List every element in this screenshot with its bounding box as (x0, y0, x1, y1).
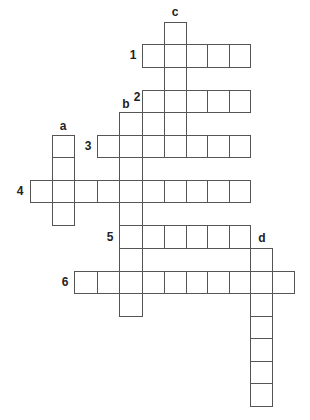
crossword-cell[interactable] (164, 22, 187, 45)
crossword-cell[interactable] (207, 135, 230, 158)
crossword-cell[interactable] (119, 271, 143, 294)
clue-label-d: d (258, 232, 265, 244)
crossword-cell[interactable] (52, 202, 75, 226)
crossword-cell[interactable] (186, 225, 208, 249)
crossword-cell[interactable] (229, 44, 251, 68)
crossword-cell[interactable] (119, 135, 143, 158)
crossword-cell[interactable] (119, 202, 143, 226)
crossword-cell[interactable] (119, 157, 143, 181)
clue-label-6: 6 (62, 276, 69, 288)
crossword-cell[interactable] (229, 90, 251, 113)
crossword-cell[interactable] (207, 225, 230, 249)
clue-label-5: 5 (107, 231, 114, 243)
crossword-cell[interactable] (250, 361, 273, 384)
crossword-cell[interactable] (250, 383, 273, 407)
clue-label-1: 1 (130, 49, 137, 61)
crossword-cell[interactable] (119, 225, 143, 249)
crossword-cell[interactable] (229, 180, 251, 203)
crossword-cell[interactable] (250, 293, 273, 317)
crossword-cell[interactable] (164, 135, 187, 158)
crossword-cell[interactable] (119, 248, 143, 272)
crossword-cell[interactable] (52, 135, 75, 158)
crossword-cell[interactable] (142, 180, 165, 203)
crossword-cell[interactable] (164, 67, 187, 91)
crossword-cell[interactable] (119, 112, 143, 136)
crossword-cell[interactable] (207, 44, 230, 68)
crossword-cell[interactable] (119, 293, 143, 317)
crossword-cell[interactable] (186, 180, 208, 203)
crossword-cell[interactable] (164, 180, 187, 203)
crossword-cell[interactable] (52, 157, 75, 181)
crossword-cell[interactable] (229, 135, 251, 158)
clue-label-a: a (60, 120, 67, 132)
crossword-cell[interactable] (250, 338, 273, 362)
crossword-cell[interactable] (142, 135, 165, 158)
crossword-grid: 123456abcd (0, 0, 310, 420)
crossword-cell[interactable] (186, 271, 208, 294)
crossword-cell[interactable] (164, 225, 187, 249)
crossword-cell[interactable] (74, 271, 98, 294)
crossword-cell[interactable] (30, 180, 53, 203)
crossword-cell[interactable] (97, 135, 120, 158)
crossword-cell[interactable] (142, 225, 165, 249)
crossword-cell[interactable] (207, 180, 230, 203)
crossword-cell[interactable] (164, 44, 187, 68)
crossword-cell[interactable] (164, 90, 187, 113)
crossword-cell[interactable] (52, 180, 75, 203)
crossword-cell[interactable] (74, 180, 98, 203)
crossword-cell[interactable] (186, 90, 208, 113)
crossword-cell[interactable] (164, 271, 187, 294)
crossword-cell[interactable] (229, 225, 251, 249)
crossword-cell[interactable] (207, 271, 230, 294)
crossword-cell[interactable] (229, 271, 251, 294)
crossword-cell[interactable] (186, 135, 208, 158)
crossword-cell[interactable] (186, 44, 208, 68)
crossword-cell[interactable] (142, 44, 165, 68)
crossword-cell[interactable] (272, 271, 295, 294)
crossword-cell[interactable] (250, 271, 273, 294)
crossword-cell[interactable] (207, 90, 230, 113)
crossword-cell[interactable] (164, 112, 187, 136)
crossword-cell[interactable] (142, 271, 165, 294)
crossword-cell[interactable] (97, 180, 120, 203)
crossword-cell[interactable] (142, 90, 165, 113)
clue-label-b: b (122, 98, 129, 110)
clue-label-2: 2 (134, 91, 141, 103)
crossword-cell[interactable] (97, 271, 120, 294)
clue-label-3: 3 (85, 140, 92, 152)
crossword-cell[interactable] (250, 316, 273, 339)
crossword-cell[interactable] (250, 248, 273, 272)
clue-label-4: 4 (17, 185, 24, 197)
clue-label-c: c (172, 6, 179, 18)
crossword-cell[interactable] (119, 180, 143, 203)
